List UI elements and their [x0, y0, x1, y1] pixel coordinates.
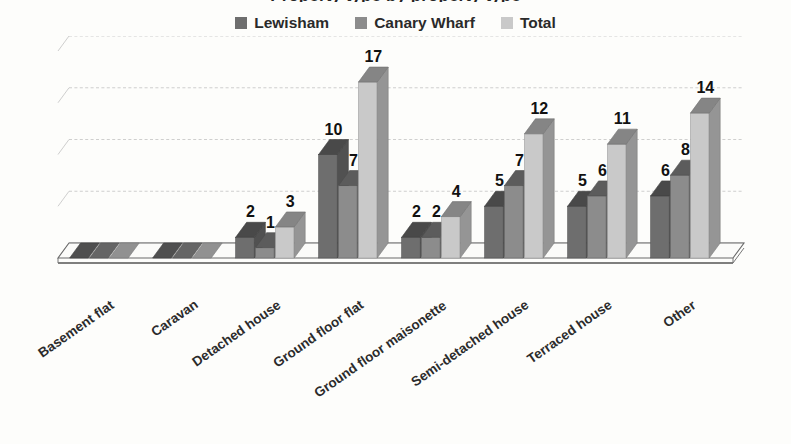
bar-front-face — [256, 248, 275, 258]
x-axis-label: Basement flat — [36, 298, 116, 360]
bar-value-label: 5 — [495, 172, 504, 189]
bar-front-face — [441, 217, 460, 258]
legend-label: Lewisham — [254, 15, 329, 31]
bar-front-face — [671, 175, 690, 258]
x-axis-label: Caravan — [149, 298, 200, 340]
x-axis-label: Detached house — [190, 298, 283, 369]
chart-title: Property type by property type — [0, 0, 791, 2]
bar-front-face — [690, 113, 709, 258]
x-axis-category-labels: Basement flatCaravanDetached houseGround… — [0, 286, 791, 406]
bar-side-face — [377, 67, 388, 258]
gridline-10 — [58, 140, 744, 155]
bar-value-label: 17 — [364, 48, 382, 65]
bar-front-face — [422, 237, 441, 258]
plot-area: 21310717224571256116814 — [0, 36, 791, 286]
bar-front-face — [651, 196, 670, 258]
x-axis-label: Other — [661, 298, 698, 330]
bar-value-label: 4 — [452, 183, 461, 200]
legend-item-lewisham[interactable]: Lewisham — [235, 15, 329, 31]
bar[interactable] — [607, 129, 637, 258]
bar-value-label: 11 — [614, 110, 631, 127]
bar-value-label: 2 — [412, 203, 421, 220]
bar-front-face — [236, 237, 255, 258]
bar-chart-svg: 21310717224571256116814 — [0, 36, 791, 286]
bar[interactable] — [524, 119, 554, 258]
bar-front-face — [524, 134, 543, 258]
bar-front-face — [505, 186, 524, 258]
bar-front-face — [319, 155, 338, 259]
bar[interactable] — [358, 67, 388, 258]
bar-front-face — [402, 237, 421, 258]
bar-side-face — [543, 119, 554, 258]
bar-value-label: 12 — [530, 100, 548, 117]
bar-group — [568, 129, 638, 258]
bar-value-label: 5 — [578, 172, 587, 189]
bar-value-label: 7 — [349, 152, 358, 169]
legend-swatch-icon — [235, 17, 247, 29]
gridline-20 — [58, 36, 744, 51]
gridline-15 — [58, 88, 744, 103]
bar-front-face — [485, 206, 504, 258]
bar-front-face — [588, 196, 607, 258]
bar-value-label: 3 — [286, 193, 295, 210]
bar-value-label: 14 — [696, 79, 714, 96]
bar-value-label: 6 — [661, 162, 670, 179]
bar-value-label: 2 — [246, 203, 255, 220]
bar-front-face — [275, 227, 294, 258]
chart-legend: Lewisham Canary Wharf Total — [0, 11, 791, 35]
bar-value-label: 2 — [432, 203, 441, 220]
bar[interactable] — [441, 202, 471, 258]
x-axis-label: Terraced house — [525, 298, 614, 366]
legend-swatch-icon — [501, 17, 513, 29]
bar-group — [70, 243, 140, 258]
bar-value-label: 6 — [598, 162, 607, 179]
bar-side-face — [626, 129, 637, 258]
legend-item-canary-wharf[interactable]: Canary Wharf — [355, 15, 475, 31]
gridline-5 — [58, 191, 744, 206]
bar-group — [153, 243, 223, 258]
legend-label: Total — [520, 15, 556, 31]
bar-front-face — [568, 206, 587, 258]
legend-item-total[interactable]: Total — [501, 15, 556, 31]
bar-value-label: 1 — [266, 214, 275, 231]
bar-value-label: 7 — [515, 152, 524, 169]
chart-container: Property type by property type Lewisham … — [0, 0, 791, 444]
bar-value-label: 8 — [681, 141, 690, 158]
bar-front-face — [339, 186, 358, 258]
legend-swatch-icon — [355, 17, 367, 29]
legend-label: Canary Wharf — [374, 15, 475, 31]
bar[interactable] — [690, 98, 720, 258]
bar-front-face — [358, 82, 377, 258]
bar-side-face — [709, 98, 720, 258]
bar-value-label: 10 — [325, 121, 343, 138]
bar-front-face — [607, 144, 626, 258]
